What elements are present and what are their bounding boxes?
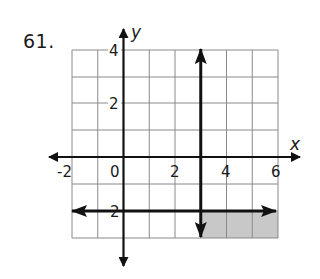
coordinate-graph: 4 2 2 -2 0 2 4 6 x y bbox=[0, 0, 320, 279]
x-tick-2: 2 bbox=[170, 163, 180, 181]
x-tick-neg2: -2 bbox=[57, 163, 72, 181]
y-tick-4: 4 bbox=[109, 42, 119, 60]
y-tick-neg2: 2 bbox=[110, 203, 120, 221]
shaded-region bbox=[200, 211, 278, 238]
x-tick-0: 0 bbox=[110, 163, 120, 181]
x-tick-4: 4 bbox=[221, 163, 231, 181]
x-tick-6: 6 bbox=[271, 163, 281, 181]
y-axis-label: y bbox=[130, 22, 142, 42]
x-axis-label: x bbox=[289, 134, 301, 154]
y-tick-2: 2 bbox=[109, 95, 119, 113]
